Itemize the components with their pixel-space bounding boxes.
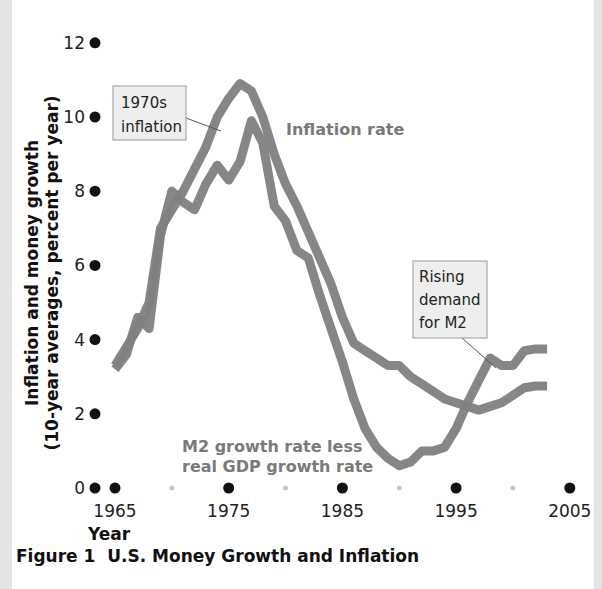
callout-text-line-2: inflation (121, 118, 182, 136)
callout-text-line-2: demand (419, 291, 481, 309)
x-tick-dot (223, 483, 234, 494)
x-tick-label: 1985 (321, 501, 364, 521)
x-axis-title: Year (87, 524, 131, 544)
series-label-m2-line-2: real GDP growth rate (182, 457, 373, 476)
y-tick-dot (90, 37, 101, 48)
y-tick-label: 0 (74, 478, 85, 498)
y-tick-label: 6 (74, 255, 85, 275)
y-tick-dot (90, 483, 101, 494)
series-label-inflation: Inflation rate (286, 120, 404, 139)
callout-text-line-1: Rising (419, 268, 465, 286)
y-tick-label: 8 (74, 181, 85, 201)
callout-leader-line (462, 338, 496, 368)
chart: 02468101219651975198519952005 Inflation … (0, 0, 602, 589)
figure-title: Figure 1 U.S. Money Growth and Inflation (16, 546, 419, 566)
x-tick-dot (451, 483, 462, 494)
y-tick-dot (90, 112, 101, 123)
x-minor-tick-dot (510, 486, 515, 491)
y-tick-label: 10 (63, 107, 85, 127)
x-tick-dot (110, 483, 121, 494)
x-minor-tick-dot (283, 486, 288, 491)
callout-text-line-1: 1970s (121, 94, 167, 112)
x-tick-label: 2005 (548, 501, 591, 521)
x-tick-label: 1995 (434, 501, 477, 521)
y-tick-dot (90, 334, 101, 345)
x-tick-label: 1975 (207, 501, 250, 521)
y-axis-title-line-2: (10-year averages, percent per year) (42, 95, 62, 450)
x-minor-tick-dot (397, 486, 402, 491)
x-tick-label: 1965 (93, 501, 136, 521)
y-tick-dot (90, 408, 101, 419)
x-tick-dot (564, 483, 575, 494)
y-tick-label: 4 (74, 330, 85, 350)
y-tick-dot (90, 186, 101, 197)
y-axis-title: Inflation and money growth (10-year aver… (22, 95, 62, 450)
y-tick-dot (90, 260, 101, 271)
x-minor-tick-dot (169, 486, 174, 491)
y-tick-label: 2 (74, 404, 85, 424)
callout-1970s-inflation: 1970s inflation (113, 86, 221, 140)
y-axis-title-line-1: Inflation and money growth (22, 140, 42, 406)
callout-rising-demand-m2: Rising demand for M2 (413, 261, 496, 368)
x-tick-dot (337, 483, 348, 494)
y-tick-label: 12 (63, 33, 85, 53)
callout-text-line-3: for M2 (419, 314, 467, 332)
series-label-m2-line-1: M2 growth rate less (182, 437, 363, 456)
